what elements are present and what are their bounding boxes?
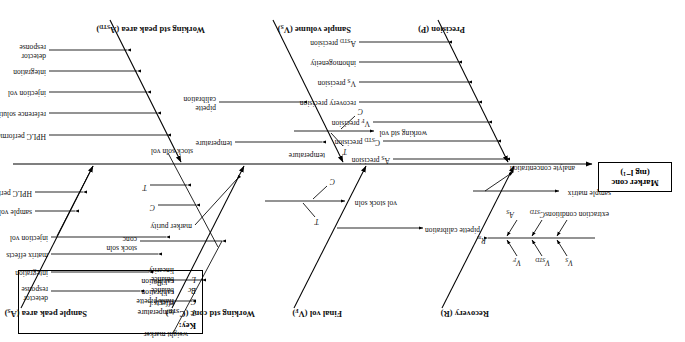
cause-detector-astd: detector: [22, 52, 46, 60]
cause-reference-solution-conc: reference solution conc: [0, 110, 46, 118]
sub-cause-VSTD: VSTD: [535, 258, 550, 266]
key-symbol-L: L: [180, 275, 196, 284]
mark-C-vol-stock-soln: C: [330, 177, 335, 185]
cause-stock-soln-vol: stock soln vol: [151, 147, 193, 155]
cause-detector-response: response: [21, 285, 48, 293]
cause-vs-precision: VS precision: [318, 79, 356, 87]
cause-pipette-calibration-vf: pipette calibration: [425, 226, 480, 234]
cause-analyte-concentration: analyte concentration: [510, 164, 575, 172]
head-line-2: (mg l⁻¹): [620, 167, 649, 177]
cause-detector: detector: [24, 294, 48, 302]
cause-pipette-vs-l1: pipette: [195, 104, 216, 112]
head-line-1: Marker conc: [611, 177, 658, 187]
mark-T-stock-vol: T: [143, 183, 147, 191]
cause-stock-soln-conc-l2: conc: [123, 235, 137, 243]
cause-Rm: Rm: [477, 236, 486, 244]
mark-L-stock-conc: L: [148, 299, 152, 307]
cause-temperature-vs: temperature: [196, 139, 232, 147]
cause-stock-soln-conc-l1: stock soln: [106, 244, 137, 252]
cause-sample-matrix: sample matrix: [568, 189, 611, 197]
cause-weight-marker: weight marker: [144, 330, 188, 338]
sub-cause-VF: VF: [513, 258, 521, 266]
cause-integration-astd: integration: [13, 68, 46, 76]
diagram-canvas: Marker conc (mg l⁻¹) Key: T temperature …: [0, 0, 685, 342]
cause-as-precision: AS precision: [352, 156, 390, 164]
cause-vf-precision: VF precision: [332, 119, 370, 127]
mark-C-stock-vol: C: [150, 203, 155, 211]
sub-cause-VS: VS: [566, 258, 573, 266]
effect-head-box: Marker conc (mg l⁻¹): [598, 162, 672, 192]
cause-injection-vol-as: injection vol: [10, 234, 48, 242]
branch-title-sample-peak-area: Sample peak area (AS): [5, 309, 87, 318]
mark-T-working-std-vol: T: [343, 147, 347, 155]
fishbone-diagram-root: Marker conc (mg l⁻¹) Key: T temperature …: [0, 0, 685, 342]
mark-T-vol-stock-soln: T: [315, 217, 319, 225]
sub-cause-extraction-conditions: extraction conditions: [545, 210, 609, 218]
cause-pipette-vs-l2: calibration: [184, 95, 216, 103]
cause-sample-vol: sample vol: [0, 208, 32, 216]
branch-title-precision: Precision (P): [418, 25, 465, 34]
mark-Bc-stock-conc: Bc: [154, 278, 162, 286]
cause-inhomogeneity: inhomogeneity: [310, 59, 356, 67]
sub-cause-CSTD: CSTD: [530, 210, 545, 218]
cause-marker-purity: marker purity: [150, 222, 192, 230]
cause-integration-as: integration: [15, 269, 48, 277]
cause-vol-stock-soln: vol stock soln: [355, 199, 397, 207]
cause-injection-vol-astd: injection vol: [8, 89, 46, 97]
branch-title-sample-volume: Sample volume (VS): [278, 25, 351, 34]
cause-recovery-precision: recovery precision: [300, 99, 356, 107]
branch-title-final-vol: Final vol (VF): [292, 309, 342, 318]
sub-cause-AS: AS: [507, 210, 514, 218]
cause-hplc-performance-as: HPLC performance: [0, 189, 32, 197]
branch-title-recovery: Recovery (R): [441, 309, 489, 318]
cause-cstd-precision: CSTD precision: [335, 138, 380, 146]
key-symbol-Bc: Bc: [180, 286, 196, 295]
cause-temperature-vf: temperature: [289, 151, 325, 159]
cause-astd-precision: ASTD precision: [310, 39, 356, 47]
branch-title-working-std-conc: Working std conc (CSTD): [166, 309, 255, 318]
mark-C-working-std-vol: C: [358, 107, 363, 115]
key-symbol-C: C: [180, 297, 196, 306]
sym-astd: A: [351, 39, 356, 48]
cause-working-std-vol: working std vol: [379, 129, 427, 137]
cause-response-astd: response: [19, 43, 46, 51]
key-title: Key:: [179, 321, 196, 330]
cause-matrix-effects: matrix effects: [6, 251, 48, 259]
branch-title-working-std-peak-area: Working std peak area (ASTD): [96, 25, 205, 34]
cause-hplc-performance-astd: HPLC performance: [0, 132, 46, 140]
